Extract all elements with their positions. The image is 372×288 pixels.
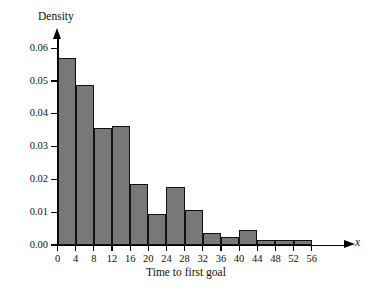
x-tick-mark [166, 245, 167, 251]
x-tick-mark [184, 245, 185, 251]
y-tick-label: 0.02 [0, 174, 48, 185]
x-tick-mark [57, 245, 58, 251]
histogram-bar [257, 240, 275, 245]
histogram-bar [130, 184, 148, 245]
y-tick-label: 0.03 [0, 141, 48, 152]
x-tick-mark [257, 245, 258, 251]
histogram-bar [58, 58, 76, 245]
y-axis-arrow-icon [53, 28, 61, 39]
x-tick-mark [202, 245, 203, 251]
y-tick-label: 0.05 [0, 76, 48, 87]
plot-area: Density 0.000.010.020.030.040.050.06 048… [0, 0, 372, 288]
histogram-figure: Density 0.000.010.020.030.040.050.06 048… [0, 0, 372, 288]
y-tick-label: 0.01 [0, 207, 48, 218]
x-tick-mark [220, 245, 221, 251]
x-tick-mark [93, 245, 94, 251]
histogram-bar [221, 237, 239, 245]
histogram-bar [76, 85, 94, 245]
histogram-bar [94, 128, 112, 245]
histogram-bar [239, 230, 257, 245]
x-tick-mark [311, 245, 312, 251]
histogram-bar [185, 210, 203, 245]
x-axis-title: Time to first goal [0, 266, 372, 278]
x-tick-mark [111, 245, 112, 251]
histogram-bar [112, 126, 130, 245]
x-tick-mark [75, 245, 76, 251]
histogram-bar [294, 240, 312, 245]
x-tick-mark [275, 245, 276, 251]
y-axis-title: Density [38, 10, 74, 23]
x-axis-variable-label: x [355, 236, 360, 248]
histogram-bar [203, 233, 221, 245]
y-tick-label: 0.06 [0, 43, 48, 54]
x-tick-mark [293, 245, 294, 251]
x-axis-arrow-icon [344, 240, 355, 248]
histogram-bar [275, 240, 293, 245]
y-tick-mark [51, 48, 58, 49]
x-tick-mark [239, 245, 240, 251]
histogram-bar [166, 187, 184, 245]
x-tick-mark [148, 245, 149, 251]
y-tick-label: 0.00 [0, 240, 48, 251]
y-tick-label: 0.04 [0, 108, 48, 119]
x-tick-label: 56 [300, 253, 324, 264]
x-tick-mark [130, 245, 131, 251]
histogram-bar [148, 214, 166, 245]
